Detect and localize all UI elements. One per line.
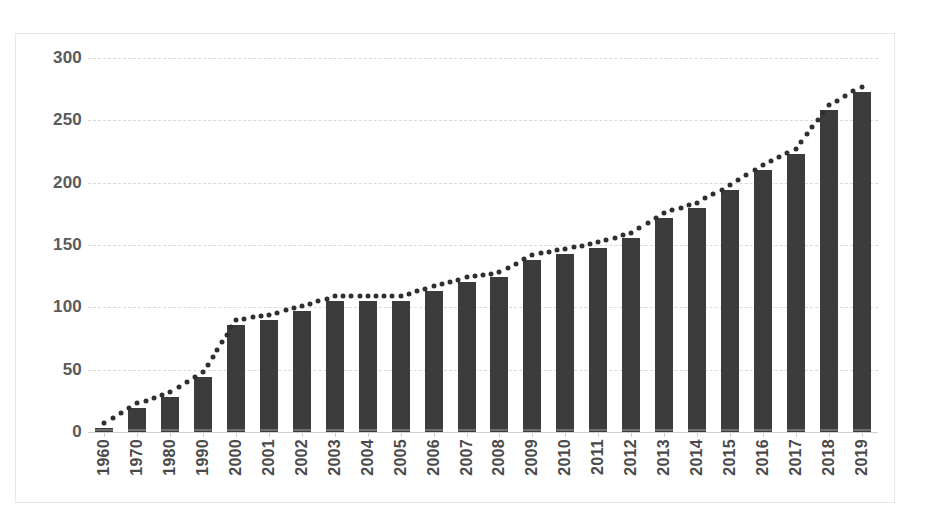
- y-axis-tick-label: 50: [30, 360, 82, 380]
- bar-1960[interactable]: [88, 58, 121, 432]
- trendline-dot: [267, 312, 272, 317]
- bar-2000[interactable]: [220, 58, 253, 432]
- bar-rect: [721, 190, 739, 432]
- x-axis-tick-label: 2011: [589, 439, 607, 475]
- trendline-dot: [332, 294, 337, 299]
- trendline-dot: [821, 110, 826, 115]
- trendline-dot: [637, 225, 642, 230]
- trendline-dot: [390, 294, 395, 299]
- x-axis-tick-2004: 2004: [351, 437, 384, 501]
- bar-2017[interactable]: [779, 58, 812, 432]
- trendline-dot: [752, 168, 757, 173]
- x-axis-tickmark: [730, 432, 731, 437]
- trendline-dot: [497, 270, 502, 275]
- bar-2010[interactable]: [549, 58, 582, 432]
- bar-2016[interactable]: [746, 58, 779, 432]
- x-axis-tick-2001: 2001: [253, 437, 286, 501]
- bar-2015[interactable]: [713, 58, 746, 432]
- bar-base-highlight: [95, 429, 113, 431]
- trendline-dot: [415, 289, 420, 294]
- trendline-dot: [205, 362, 210, 367]
- bar-2012[interactable]: [615, 58, 648, 432]
- bar-2014[interactable]: [681, 58, 714, 432]
- trendline-dot: [192, 375, 197, 380]
- x-axis-tick-2006: 2006: [417, 437, 450, 501]
- trendline-dot: [464, 275, 469, 280]
- x-axis-tick-2008: 2008: [483, 437, 516, 501]
- x-axis-tick-label: 2006: [425, 439, 443, 476]
- y-axis-tick-label: 150: [30, 235, 82, 255]
- trendline-dot: [694, 200, 699, 205]
- x-axis-tick-2019: 2019: [845, 437, 878, 501]
- trendline-dot: [110, 416, 115, 421]
- x-axis-tick-2012: 2012: [615, 437, 648, 501]
- bar-2013[interactable]: [648, 58, 681, 432]
- bar-2002[interactable]: [286, 58, 319, 432]
- bar-2001[interactable]: [253, 58, 286, 432]
- trendline-dot: [596, 240, 601, 245]
- bar-2003[interactable]: [318, 58, 351, 432]
- trendline-dot: [234, 317, 239, 322]
- bar-rect: [853, 92, 871, 432]
- bar-2005[interactable]: [384, 58, 417, 432]
- bar-rect: [194, 377, 212, 432]
- x-axis-tick-label: 2003: [326, 439, 344, 476]
- bar-2019[interactable]: [845, 58, 878, 432]
- x-axis-tick-label: 2015: [721, 439, 739, 476]
- x-axis-tick-label: 2001: [260, 439, 278, 476]
- bar-base-highlight: [490, 429, 508, 431]
- x-axis-tickmark: [664, 432, 665, 437]
- trendline-dot: [744, 173, 749, 178]
- y-axis-labels: 300250200150100500: [20, 58, 82, 432]
- trendline-dot: [374, 294, 379, 299]
- trendline-dot: [653, 215, 658, 220]
- bar-2006[interactable]: [417, 58, 450, 432]
- bar-2018[interactable]: [812, 58, 845, 432]
- trendline-dot: [151, 395, 156, 400]
- x-axis-tickmark: [697, 432, 698, 437]
- bar-2009[interactable]: [516, 58, 549, 432]
- bar-base-highlight: [326, 429, 344, 431]
- bar-1970[interactable]: [121, 58, 154, 432]
- bar-base-highlight: [655, 429, 673, 431]
- trendline-dot: [201, 370, 206, 375]
- bar-rect: [589, 248, 607, 433]
- trendline-dot: [472, 274, 477, 279]
- trendline-dot: [604, 238, 609, 243]
- x-axis-tick-label: 1980: [161, 439, 179, 476]
- trendline-dot: [645, 220, 650, 225]
- x-axis-tick-label: 2013: [655, 439, 673, 476]
- trendline-dot: [423, 286, 428, 291]
- gridline-0: [88, 432, 878, 433]
- bar-rect: [523, 260, 541, 432]
- trendline-dot: [349, 294, 354, 299]
- x-axis-tickmark: [368, 432, 369, 437]
- bar-2004[interactable]: [351, 58, 384, 432]
- x-axis-tick-2003: 2003: [318, 437, 351, 501]
- trendline-dot: [448, 279, 453, 284]
- bar-rect: [754, 170, 772, 432]
- trendline-dot: [629, 230, 634, 235]
- trendline-dot: [513, 261, 518, 266]
- bar-rect: [787, 154, 805, 432]
- x-axis-tickmark: [401, 432, 402, 437]
- bar-base-highlight: [754, 429, 772, 431]
- trendline-dot: [620, 233, 625, 238]
- bar-rect: [260, 320, 278, 432]
- x-axis-tickmark: [499, 432, 500, 437]
- bar-rect: [392, 301, 410, 432]
- bar-2007[interactable]: [450, 58, 483, 432]
- bar-base-highlight: [425, 429, 443, 431]
- trendline-dot: [398, 294, 403, 299]
- bar-rect: [326, 301, 344, 432]
- bar-1980[interactable]: [154, 58, 187, 432]
- bar-base-highlight: [458, 429, 476, 431]
- trendline-dot: [168, 390, 173, 395]
- trendline-dot: [275, 310, 280, 315]
- bar-rect: [622, 238, 640, 432]
- bar-2008[interactable]: [483, 58, 516, 432]
- trendline-dot: [555, 248, 560, 253]
- trendline-dot: [143, 398, 148, 403]
- x-axis-tick-2011: 2011: [582, 437, 615, 501]
- bar-rect: [820, 110, 838, 432]
